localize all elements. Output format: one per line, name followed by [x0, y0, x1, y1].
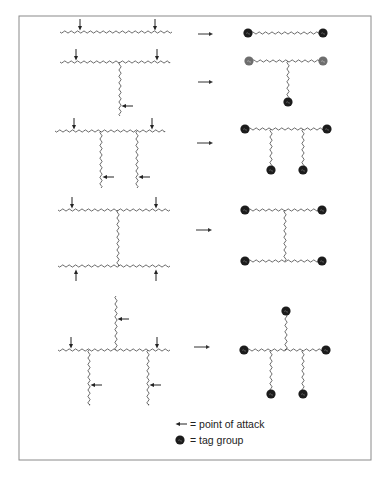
polymer-chain	[249, 60, 323, 62]
polymer-chain	[245, 209, 322, 211]
attack-arrow-icon	[91, 383, 103, 387]
reaction-arrow-icon	[196, 228, 212, 232]
attack-arrow-icon	[122, 104, 134, 108]
tag-group-icon	[240, 205, 249, 214]
polymer-chain	[270, 129, 272, 170]
product-polymer	[239, 306, 330, 398]
attack-arrow-icon	[153, 19, 157, 31]
polymer-chain	[100, 131, 102, 188]
attack-arrow-icon	[72, 118, 76, 130]
polymer-chain	[302, 129, 304, 170]
legend-point-of-attack-label: = point of attack	[190, 418, 264, 430]
reaction-arrow-icon	[194, 345, 210, 349]
attack-arrow-icon	[150, 383, 162, 387]
attack-arrow-icon	[155, 49, 159, 61]
polymer-chain	[60, 31, 172, 33]
polymer-chain	[119, 62, 121, 116]
attack-arrow-icon	[118, 317, 130, 321]
product-polymer	[240, 124, 331, 174]
polymer-chain	[60, 61, 170, 63]
product-polymer	[244, 56, 327, 106]
polymer-chain	[88, 350, 90, 405]
polymer-chain	[245, 260, 322, 262]
polymer-chain	[136, 131, 138, 188]
reaction-row-single-branch	[60, 49, 328, 116]
polymer-chain	[245, 128, 327, 130]
polymer-chain	[115, 296, 117, 350]
reactant-polymer	[55, 118, 165, 188]
reaction-rows	[55, 19, 332, 405]
reactant-polymer	[58, 197, 170, 281]
tag-group-icon	[266, 165, 275, 174]
legend-symbols	[175, 422, 187, 445]
diagram-canvas	[0, 0, 389, 485]
attack-arrow-icon	[74, 49, 78, 61]
attack-arrow-icon	[154, 197, 158, 209]
attack-arrow-icon	[155, 337, 159, 349]
polymer-chain	[285, 311, 287, 350]
figure: = point of attack = tag group	[0, 0, 389, 485]
reactant-polymer	[60, 49, 170, 116]
reactant-polymer	[60, 19, 172, 33]
polymer-chain	[284, 210, 286, 261]
tag-group-icon	[281, 306, 290, 315]
attack-arrow-icon	[69, 337, 73, 349]
polymer-chain	[302, 350, 304, 394]
polymer-chain	[55, 130, 165, 132]
reaction-arrow-icon	[198, 80, 213, 84]
reaction-arrow-icon	[198, 32, 213, 36]
legend-tag-group-label: = tag group	[190, 434, 243, 446]
reaction-row-double-branch	[55, 118, 332, 188]
tag-group-icon	[239, 345, 248, 354]
product-polymer	[243, 28, 327, 37]
reaction-row-linear	[60, 19, 328, 38]
reaction-arrow-icon	[197, 141, 213, 145]
attack-arrow-icon	[74, 270, 78, 282]
reactant-polymer	[58, 296, 170, 405]
polymer-chain	[248, 32, 323, 34]
attack-arrow-icon	[150, 118, 154, 130]
reaction-row-star-branch	[58, 296, 331, 405]
polymer-chain	[287, 61, 289, 102]
polymer-chain	[147, 350, 149, 405]
tag-group-icon	[266, 389, 275, 398]
tag-group-icon	[298, 389, 307, 398]
tag-group-icon	[240, 124, 249, 133]
figure-frame	[19, 16, 371, 460]
product-polymer	[240, 205, 326, 265]
tag-group-icon	[240, 256, 249, 265]
tag-group-icon	[175, 435, 184, 444]
polymer-chain	[117, 210, 119, 266]
attack-arrow-icon	[103, 175, 115, 179]
tag-group-icon	[244, 56, 253, 65]
tag-group-icon	[318, 28, 327, 37]
tag-group-icon	[243, 28, 252, 37]
attack-arrow-icon	[78, 19, 82, 31]
tag-group-icon	[321, 345, 330, 354]
tag-group-icon	[317, 256, 326, 265]
tag-group-icon	[322, 124, 331, 133]
polymer-chain	[58, 265, 170, 267]
tag-group-icon	[298, 165, 307, 174]
polymer-chain	[58, 349, 170, 351]
attack-arrow-icon	[139, 175, 151, 179]
reaction-row-h-shape	[58, 197, 327, 281]
tag-group-icon	[318, 56, 327, 65]
tag-group-icon	[317, 205, 326, 214]
attack-arrow-icon	[176, 422, 188, 426]
polymer-chain	[270, 350, 272, 394]
polymer-chain	[58, 209, 170, 211]
tag-group-icon	[283, 97, 292, 106]
attack-arrow-icon	[154, 270, 158, 282]
attack-arrow-icon	[70, 197, 74, 209]
